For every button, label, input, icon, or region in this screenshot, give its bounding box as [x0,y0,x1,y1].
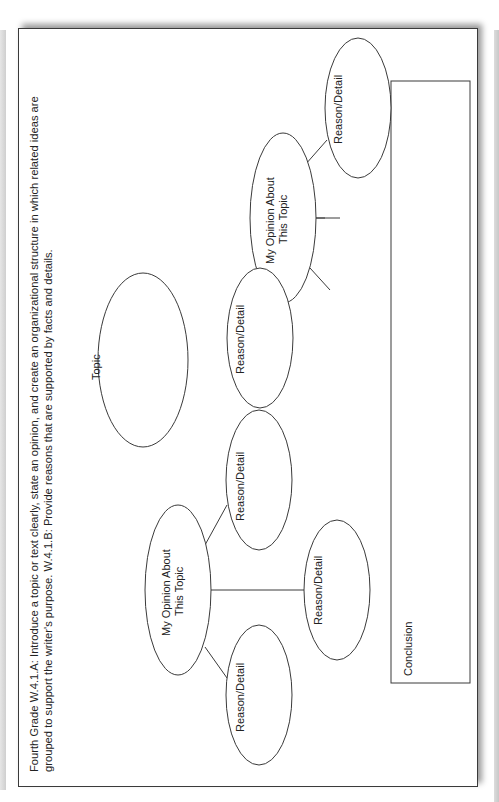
reason-label: Reason/Detail [234,452,246,521]
opinion-left-line-1: My Opinion About [160,549,172,636]
conclusion-box[interactable] [391,81,470,683]
topic-label: Topic [90,354,102,380]
connector-line [310,268,330,290]
opinion-right-line-2: This Topic [277,194,289,244]
standard-text-line-2: grouped to support the writer's purpose.… [42,249,54,772]
connector-line [205,505,227,545]
reason-label: Reason/Detail [234,663,246,732]
reason-label: Reason/Detail [332,75,344,144]
reason-label: Reason/Detail [312,556,324,625]
opinion-left-line-2: This Topic [173,566,185,616]
topic-ellipse[interactable] [98,273,188,447]
reason-label: Reason/Detail [234,305,246,374]
graphic-organizer: Fourth Grade W.4.1.A: Introduce a topic … [0,0,499,802]
connector-line [205,647,227,678]
conclusion-label: Conclusion [402,622,414,676]
standard-text-line-1: Fourth Grade W.4.1.A: Introduce a topic … [28,96,40,772]
opinion-right-line-1: My Opinion About [264,177,276,264]
connector-line [305,140,327,165]
